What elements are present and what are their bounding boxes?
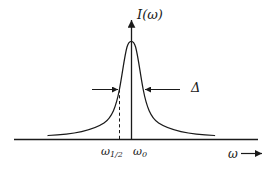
tick-label-omega-zero-symbol: ω xyxy=(133,145,142,158)
y-axis-label: I(ω) xyxy=(137,8,163,21)
tick-label-omega-zero-subscript: 0 xyxy=(142,150,147,159)
y-axis-label-argument: ω xyxy=(147,7,158,22)
y-axis-label-paren-close: ) xyxy=(158,7,163,22)
tick-label-omega-half-subscript: 1/2 xyxy=(110,150,123,159)
lorentzian-line-shape-figure: I(ω) ω Δ ω1/2 ω0 xyxy=(0,0,273,171)
delta-fwhm-label: Δ xyxy=(191,81,200,94)
tick-label-omega-half: ω1/2 xyxy=(101,146,123,157)
x-axis-label: ω xyxy=(228,148,238,160)
tick-label-omega-half-symbol: ω xyxy=(101,145,110,158)
tick-label-omega-zero: ω0 xyxy=(133,146,147,157)
